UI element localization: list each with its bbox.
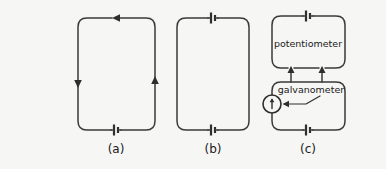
current-arrow-left-a [74, 80, 82, 88]
panel-a-loop-wire [78, 18, 155, 130]
battery-bottom-c [303, 125, 313, 136]
galvanometer-leader-line [286, 96, 320, 104]
battery-bottom-a [111, 125, 121, 136]
panel-b-loop-wire [177, 18, 249, 130]
panel-b: (b) [177, 13, 249, 156]
battery-top-b [208, 13, 218, 24]
current-arrow-right-a [151, 76, 159, 84]
panel-a: (a) [74, 14, 159, 155]
panel-b-caption: (b) [205, 142, 222, 156]
galvanometer-label: galvanometer [278, 84, 344, 95]
panel-c: potentiometer galvanometer (c) [263, 11, 345, 156]
panel-a-caption: (a) [108, 142, 125, 156]
panel-c-caption: (c) [300, 142, 316, 156]
battery-top-c [303, 11, 313, 22]
tap-arrow-right-c [319, 66, 326, 73]
battery-bottom-b [208, 125, 218, 136]
potentiometer-label: potentiometer [274, 38, 342, 49]
galvanometer-meter [263, 95, 281, 113]
current-arrow-top-a [112, 14, 120, 22]
tap-arrow-left-c [288, 66, 295, 73]
circuit-diagram-svg: (a) (b) [0, 0, 386, 169]
galvanometer-leader-arrowhead [283, 101, 290, 107]
figure-container: (a) (b) [0, 0, 386, 169]
